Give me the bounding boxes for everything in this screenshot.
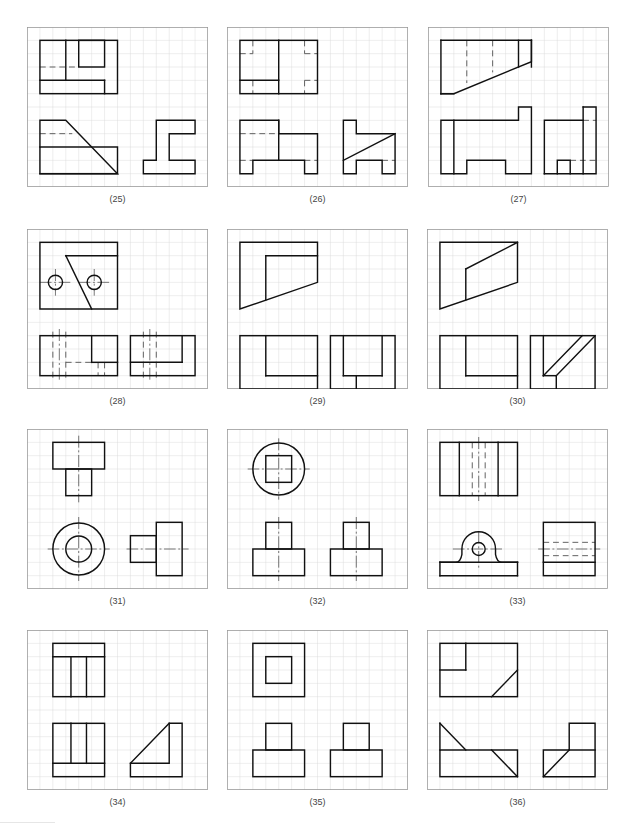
drawing-panel-34 (27, 630, 208, 790)
orthographic-drawing (428, 27, 609, 187)
grid-lines (27, 630, 208, 790)
footer-rule (0, 822, 55, 823)
grid-lines (27, 429, 208, 589)
drawing-panel-30 (427, 229, 608, 389)
panel-label-33: (33) (427, 596, 608, 606)
orthographic-drawing (227, 429, 408, 589)
drawing-panel-26 (227, 27, 408, 187)
orthographic-drawing (227, 27, 408, 187)
orthographic-drawing (427, 229, 608, 389)
drawing-panel-35 (227, 630, 408, 790)
drawing-panel-28 (27, 229, 208, 389)
orthographic-drawing (27, 229, 208, 389)
object-outline (130, 336, 195, 376)
panel-label-30: (30) (427, 396, 608, 406)
object-profile (557, 160, 570, 173)
orthographic-drawing (27, 429, 208, 589)
panel-label-28: (28) (27, 396, 208, 406)
panel-label-34: (34) (27, 797, 208, 807)
orthographic-drawing (27, 630, 208, 790)
panel-label-25: (25) (27, 194, 208, 204)
orthographic-drawing (227, 229, 408, 389)
panel-label-29: (29) (227, 396, 408, 406)
drawing-panel-25 (27, 27, 208, 187)
drawing-panel-31 (27, 429, 208, 589)
grid-lines (227, 429, 408, 589)
orthographic-drawing (427, 429, 608, 589)
drawing-panel-32 (227, 429, 408, 589)
drawing-panel-29 (227, 229, 408, 389)
orthographic-drawing (27, 27, 208, 187)
panel-label-32: (32) (227, 596, 408, 606)
drawing-panel-27 (428, 27, 609, 187)
panel-label-26: (26) (227, 194, 408, 204)
panel-label-35: (35) (227, 797, 408, 807)
panel-label-31: (31) (27, 596, 208, 606)
panel-label-27: (27) (428, 194, 609, 204)
orthographic-drawing (427, 630, 608, 790)
grid-lines (227, 630, 408, 790)
drawing-panel-33 (427, 429, 608, 589)
orthographic-drawing (227, 630, 408, 790)
drawing-panel-36 (427, 630, 608, 790)
panel-label-36: (36) (427, 797, 608, 807)
